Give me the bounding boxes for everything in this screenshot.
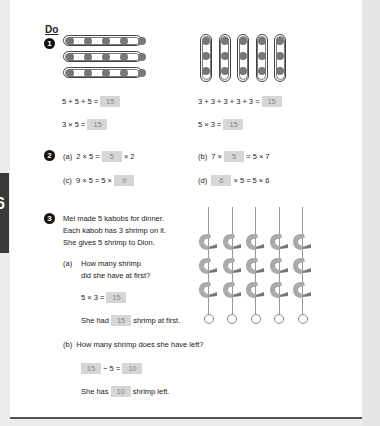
counter-dot	[202, 37, 210, 45]
counter-dot	[120, 53, 128, 61]
shrimp-icon	[245, 257, 265, 275]
shrimp-icon	[222, 233, 242, 251]
p3b-sentence: She has 10 shrimp left.	[81, 386, 169, 397]
answer-box[interactable]: 15	[106, 292, 126, 303]
skewer-ring	[274, 314, 284, 324]
answer-box[interactable]: 15	[81, 363, 101, 374]
counter-dot	[84, 69, 92, 77]
counter-dot	[202, 67, 210, 75]
counter-dot	[221, 37, 229, 45]
counter-dot	[120, 37, 128, 45]
workbook-page	[10, 0, 362, 418]
answer-box[interactable]: 15	[111, 315, 131, 326]
p3a-sentence: She had 15 shrimp at first.	[81, 315, 180, 326]
counter-dot	[138, 53, 146, 61]
skewer-ring	[251, 314, 261, 324]
answer-box[interactable]: 10	[122, 363, 142, 374]
shrimp-icon	[292, 281, 312, 299]
counter-dot	[120, 69, 128, 77]
problem-number-3: 3	[44, 213, 55, 224]
counter-dot	[239, 52, 247, 60]
chapter-tab: 6	[0, 173, 9, 253]
counter-dot	[221, 52, 229, 60]
answer-box[interactable]: 9	[114, 175, 134, 186]
counter-dot	[138, 37, 146, 45]
counter-dot	[239, 67, 247, 75]
page-bottom-edge	[10, 417, 362, 419]
p1-left-eq2: 3 × 5 = 15	[62, 119, 107, 130]
shrimp-icon	[222, 281, 242, 299]
counter-dot	[202, 52, 210, 60]
p2-part-d: (d) 6 × 5 = 5 × 6	[198, 175, 270, 186]
counter-dot	[66, 37, 74, 45]
answer-box[interactable]: 15	[223, 119, 243, 130]
counter-dot	[66, 69, 74, 77]
answer-box[interactable]: 6	[211, 175, 231, 186]
shrimp-icon	[245, 233, 265, 251]
p3-story: Mei made 5 kabobs for dinner. Each kabob…	[63, 213, 166, 249]
answer-box[interactable]: 15	[100, 96, 120, 107]
shrimp-icon	[245, 281, 265, 299]
shrimp-icon	[269, 257, 289, 275]
p3b-equation: 15 − 5 = 10	[81, 363, 142, 374]
shrimp-icon	[292, 233, 312, 251]
counter-dot	[102, 37, 110, 45]
shrimp-icon	[198, 281, 218, 299]
p2-part-c: (c) 9 × 5 = 5 × 9	[63, 175, 134, 186]
answer-box[interactable]: 10	[111, 386, 131, 397]
p1-right-eq2: 5 × 3 = 15	[198, 119, 243, 130]
p1-right-eq1: 3 + 3 + 3 + 3 + 3 = 15	[198, 96, 282, 107]
skewer-ring	[227, 314, 237, 324]
shrimp-icon	[269, 281, 289, 299]
p3a-question: (a) How many shrimp did she have at firs…	[63, 258, 150, 282]
shrimp-icon	[269, 233, 289, 251]
skewer-ring	[204, 314, 214, 324]
problem-number-2: 2	[44, 150, 55, 161]
counter-dot	[102, 53, 110, 61]
counter-dot	[84, 53, 92, 61]
answer-box[interactable]: 5	[102, 151, 122, 162]
counter-dot	[258, 52, 266, 60]
p2-part-b: (b) 7 × 5 = 5 × 7	[198, 151, 270, 162]
page-margin	[362, 0, 380, 426]
counter-dot	[84, 37, 92, 45]
answer-box[interactable]: 15	[262, 96, 282, 107]
counter-dot	[239, 37, 247, 45]
counter-dot	[258, 67, 266, 75]
counter-dot	[102, 69, 110, 77]
p1-left-eq1: 5 + 5 + 5 = 15	[62, 96, 120, 107]
counter-dot	[66, 53, 74, 61]
answer-box[interactable]: 15	[87, 119, 107, 130]
problem-number-1: 1	[44, 38, 55, 49]
shrimp-icon	[292, 257, 312, 275]
p2-part-a: (a) 2 × 5 = 5 × 2	[63, 151, 135, 162]
skewer-ring	[298, 314, 308, 324]
section-title: Do	[45, 24, 58, 35]
counter-dot	[138, 69, 146, 77]
shrimp-icon	[198, 233, 218, 251]
p3a-equation: 5 × 3 = 15	[81, 292, 126, 303]
counter-dot	[221, 67, 229, 75]
chapter-number: 6	[0, 195, 5, 213]
counter-dot	[258, 37, 266, 45]
counter-dot	[276, 52, 284, 60]
p3b-question: (b) How many shrimp does she have left?	[63, 340, 204, 350]
shrimp-icon	[222, 257, 242, 275]
answer-box[interactable]: 5	[224, 151, 244, 162]
counter-dot	[276, 67, 284, 75]
counter-dot	[276, 37, 284, 45]
shrimp-icon	[198, 257, 218, 275]
